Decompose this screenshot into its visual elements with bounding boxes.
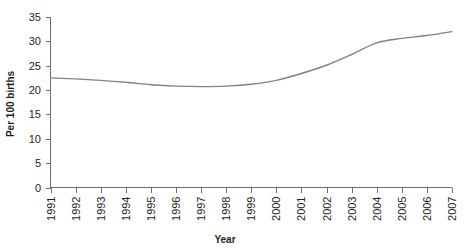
x-tick-label: 2000 <box>270 197 282 221</box>
data-series-line <box>51 32 453 87</box>
x-tick-label: 2005 <box>396 197 408 221</box>
x-axis-title: Year <box>214 234 235 245</box>
y-tick-label: 25 <box>29 60 41 72</box>
y-tick-label: 0 <box>35 182 41 194</box>
x-tick-label: 1996 <box>170 197 182 221</box>
x-tick-label: 2003 <box>346 197 358 221</box>
x-tick-label: 1992 <box>70 197 82 221</box>
y-tick-label: 10 <box>29 133 41 145</box>
x-tick-label: 1991 <box>45 197 57 221</box>
y-axis-tick-marks <box>46 18 51 189</box>
y-axis-title: Per 100 births <box>5 70 16 137</box>
y-tick-label: 5 <box>35 157 41 169</box>
x-axis-tick-marks <box>52 188 453 193</box>
line-chart: 05101520253035 1991199219931994199519961… <box>0 0 464 252</box>
x-axis-tick-labels: 1991199219931994199519961997199819992000… <box>45 197 459 221</box>
x-tick-label: 1998 <box>220 197 232 221</box>
y-axis-tick-labels: 05101520253035 <box>29 11 41 194</box>
chart-container: 05101520253035 1991199219931994199519961… <box>0 0 464 252</box>
y-tick-label: 15 <box>29 108 41 120</box>
x-tick-label: 1999 <box>245 197 257 221</box>
y-tick-label: 20 <box>29 84 41 96</box>
y-tick-label: 35 <box>29 11 41 23</box>
y-tick-label: 30 <box>29 35 41 47</box>
x-tick-label: 1993 <box>95 197 107 221</box>
x-tick-label: 1994 <box>120 197 132 221</box>
x-tick-label: 2001 <box>295 197 307 221</box>
x-tick-label: 2007 <box>446 197 458 221</box>
x-tick-label: 2006 <box>421 197 433 221</box>
x-tick-label: 1997 <box>195 197 207 221</box>
x-tick-label: 2004 <box>371 197 383 221</box>
x-tick-label: 1995 <box>145 197 157 221</box>
x-tick-label: 2002 <box>321 197 333 221</box>
